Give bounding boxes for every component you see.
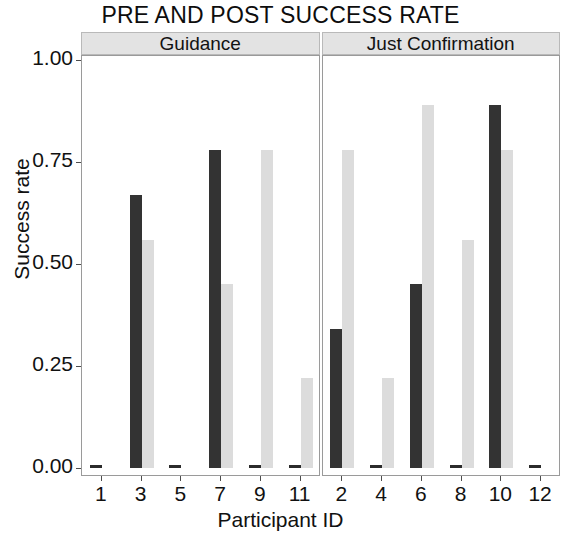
bar-pre-p1 [90, 465, 102, 468]
bar-pre-p11 [289, 465, 301, 468]
x-axis-tick-label: 8 [441, 482, 481, 506]
x-axis-tick-label: 11 [280, 482, 320, 506]
bar-pre-p10 [489, 105, 501, 468]
x-axis-tick-mark [180, 476, 181, 481]
bar-post-p8 [462, 240, 474, 468]
chart-figure: PRE AND POST SUCCESS RATE Success rate 0… [0, 0, 561, 553]
bar-pre-p4 [370, 465, 382, 468]
facet-panel-2 [322, 55, 561, 476]
bar-pre-p6 [410, 284, 422, 468]
bar-pre-p5 [169, 465, 181, 468]
bar-post-p2 [342, 150, 354, 468]
bar-post-p10 [501, 150, 513, 468]
y-axis-tick-label: 0.50 [32, 250, 73, 274]
bar-post-p11 [301, 378, 313, 468]
x-axis-tick-mark [421, 476, 422, 481]
x-axis-tick-mark [260, 476, 261, 481]
bar-post-p7 [221, 284, 233, 468]
y-axis-tick-label: 1.00 [32, 46, 73, 70]
x-axis-tick-mark [341, 476, 342, 481]
bar-post-p6 [422, 105, 434, 468]
x-axis-tick-mark [461, 476, 462, 481]
bar-pre-p2 [330, 329, 342, 468]
bar-post-p4 [382, 378, 394, 468]
x-axis-tick-label: 1 [81, 482, 121, 506]
bar-post-p3 [142, 240, 154, 468]
plot-area: Success rate 0.000.250.500.751.00 Guidan… [0, 32, 561, 510]
bar-pre-p3 [130, 195, 142, 468]
x-axis-tick-mark [381, 476, 382, 481]
facet-strip-1: Guidance [81, 32, 320, 55]
x-axis-tick-mark [220, 476, 221, 481]
x-axis-tick-mark [141, 476, 142, 481]
chart-title: PRE AND POST SUCCESS RATE [0, 2, 561, 29]
y-axis-tick-label: 0.00 [32, 454, 73, 478]
bar-group-container [82, 56, 319, 475]
x-axis-tick-label: 5 [160, 482, 200, 506]
x-axis-tick-label: 12 [520, 482, 560, 506]
x-axis-tick-mark [500, 476, 501, 481]
facet-panel-1 [81, 55, 320, 476]
bar-pre-p7 [209, 150, 221, 468]
bar-pre-p12 [529, 465, 541, 468]
bar-group-container [323, 56, 560, 475]
bar-post-p9 [261, 150, 273, 468]
bar-pre-p9 [249, 465, 261, 468]
x-axis-tick-label: 10 [480, 482, 520, 506]
x-axis-tick-label: 2 [321, 482, 361, 506]
x-axis-tick-label: 9 [240, 482, 280, 506]
x-axis-tick-label: 6 [401, 482, 441, 506]
x-axis-tick-mark [101, 476, 102, 481]
x-axis-tick-mark [540, 476, 541, 481]
y-axis-tick-label: 0.25 [32, 352, 73, 376]
facet-strip-2: Just Confirmation [322, 32, 561, 55]
x-axis-tick-label: 4 [361, 482, 401, 506]
x-axis-tick-label: 3 [121, 482, 161, 506]
y-axis-label: Success rate [10, 89, 34, 349]
x-axis-tick-mark [300, 476, 301, 481]
x-axis-tick-label: 7 [200, 482, 240, 506]
bar-pre-p8 [450, 465, 462, 468]
y-axis-tick-label: 0.75 [32, 148, 73, 172]
x-axis-label: Participant ID [0, 508, 561, 532]
